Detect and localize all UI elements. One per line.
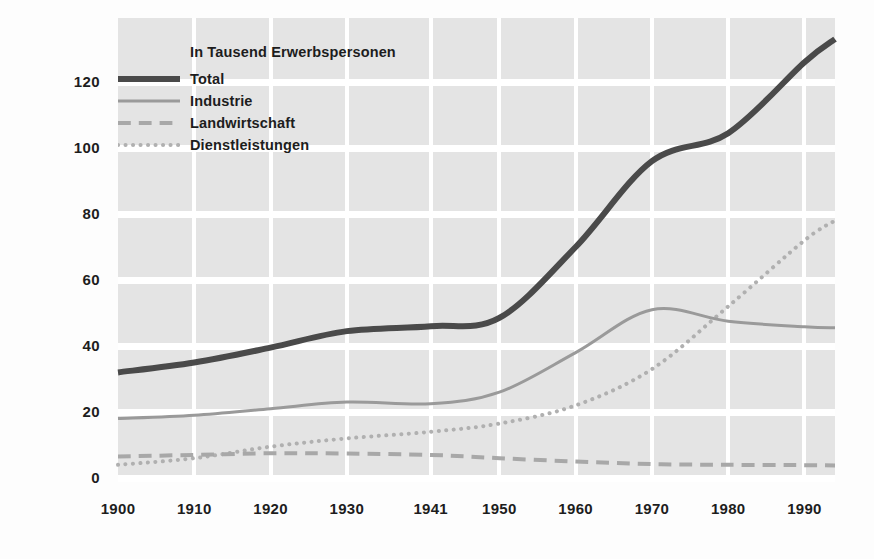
legend: In Tausend Erwerbspersonen TotalIndustri… [190,44,396,156]
y-axis-tick-label: 120 [44,73,100,90]
x-axis-tick-label: 1900 [88,500,148,517]
legend-label: Industrie [190,93,253,109]
x-axis-tick-label: 1920 [241,500,301,517]
x-axis-tick-label: 1910 [164,500,224,517]
legend-title: In Tausend Erwerbspersonen [190,44,396,60]
series-line-landwirtschaft [118,453,835,465]
legend-swatch-total [118,72,180,86]
y-axis-tick-label: 100 [44,139,100,156]
legend-entries: TotalIndustrieLandwirtschaftDienstleistu… [190,68,396,156]
x-axis-tick-label: 1990 [774,500,834,517]
x-axis-tick-label: 1950 [469,500,529,517]
y-axis-tick-label: 0 [44,469,100,486]
legend-entry: Dienstleistungen [190,134,396,156]
legend-entry: Industrie [190,90,396,112]
y-axis-tick-label: 60 [44,271,100,288]
legend-swatch-dienstleistungen [118,138,180,152]
legend-entry: Total [190,68,396,90]
x-axis-tick-label: 1941 [401,500,461,517]
legend-label: Total [190,71,224,87]
y-axis-tick-label: 40 [44,337,100,354]
legend-label: Dienstleistungen [190,137,309,153]
series-line-dienstleistungen [118,221,835,465]
legend-label: Landwirtschaft [190,115,295,131]
x-axis-tick-label: 1980 [698,500,758,517]
legend-swatch-landwirtschaft [118,116,180,130]
legend-swatch-industrie [118,94,180,108]
y-axis-tick-label: 20 [44,403,100,420]
chart-figure: 020406080100120 190019101920193019411950… [0,0,874,559]
y-axis-tick-label: 80 [44,205,100,222]
legend-entry: Landwirtschaft [190,112,396,134]
x-axis-tick-label: 1930 [317,500,377,517]
x-axis-tick-label: 1970 [622,500,682,517]
x-axis-tick-label: 1960 [546,500,606,517]
